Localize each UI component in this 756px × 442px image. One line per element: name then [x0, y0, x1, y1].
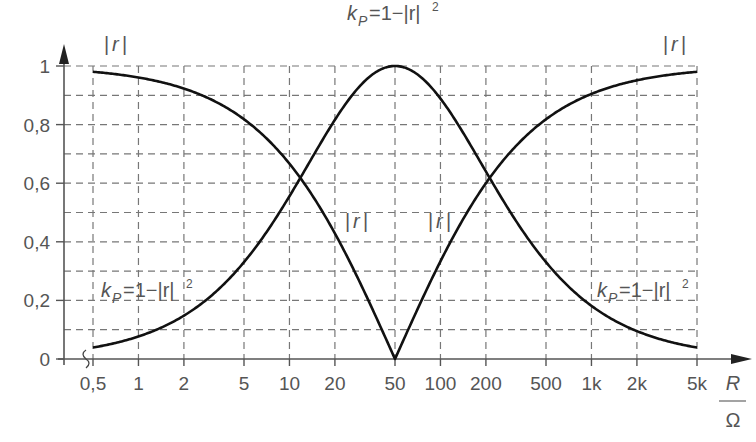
x-tick-label: 500	[530, 373, 562, 394]
x-tick-label: 20	[324, 373, 345, 394]
grid-lines	[64, 66, 697, 359]
svg-text:|: |	[104, 33, 109, 55]
x-tick-label: 10	[279, 373, 300, 394]
x-tick-label: 5k	[687, 373, 708, 394]
svg-text:|: |	[663, 33, 668, 55]
y-tick-label: 0,8	[24, 115, 50, 136]
y-tick-label: 0	[39, 349, 50, 370]
x-tick-label: 100	[425, 373, 457, 394]
annotation-r-top-right: | r |	[663, 33, 686, 55]
svg-text:|: |	[428, 210, 433, 232]
svg-text:r: r	[436, 210, 444, 232]
axes	[58, 44, 752, 368]
svg-text:k: k	[597, 279, 608, 301]
svg-text:|: |	[446, 210, 451, 232]
svg-text:P: P	[112, 290, 122, 306]
x-tick-label: 50	[384, 373, 405, 394]
svg-text:k: k	[101, 279, 112, 301]
y-tick-labels: 00,20,40,60,81	[24, 56, 64, 370]
y-tick-label: 0,2	[24, 290, 50, 311]
annotation-kp-bottom-left: k P =1−|r| 2	[101, 277, 193, 306]
svg-text:=1−|r|: =1−|r|	[619, 279, 671, 301]
svg-text:2: 2	[186, 277, 193, 291]
svg-text:|: |	[122, 33, 127, 55]
x-tick-label: 2	[179, 373, 190, 394]
svg-text:=1−|r|: =1−|r|	[123, 279, 175, 301]
x-tick-label: 1k	[581, 373, 602, 394]
svg-text:|: |	[681, 33, 686, 55]
svg-text:|: |	[345, 210, 350, 232]
svg-text:2: 2	[682, 277, 689, 291]
x-tick-label: 2k	[627, 373, 648, 394]
annotation-r-center-right: | r |	[428, 210, 451, 232]
svg-text:k: k	[347, 2, 358, 24]
x-label-denominator: Ω	[726, 409, 741, 431]
x-tick-label: 1	[133, 373, 144, 394]
chart: 00,20,40,60,81 0,51251020501002005001k2k…	[0, 0, 756, 442]
svg-text:r: r	[671, 33, 679, 55]
annotation-kp-top: k P =1−|r| 2	[347, 0, 439, 29]
x-axis-arrow-icon	[731, 354, 752, 364]
svg-text:=1−|r|: =1−|r|	[369, 2, 421, 24]
annotation-r-top-left: | r |	[104, 33, 127, 55]
x-tick-label: 0,5	[80, 373, 106, 394]
svg-text:r: r	[353, 210, 361, 232]
x-axis-label: R Ω	[719, 372, 746, 431]
svg-text:r: r	[112, 33, 120, 55]
y-axis-arrow-icon	[59, 44, 69, 64]
y-tick-label: 0,4	[24, 232, 51, 253]
y-tick-label: 1	[39, 56, 50, 77]
x-label-numerator: R	[726, 372, 740, 394]
svg-text:P: P	[608, 290, 618, 306]
annotation-kp-bottom-right: k P =1−|r| 2	[597, 277, 689, 306]
annotation-r-center-left: | r |	[345, 210, 368, 232]
svg-text:|: |	[363, 210, 368, 232]
y-tick-label: 0,6	[24, 173, 50, 194]
x-tick-label: 5	[239, 373, 250, 394]
x-tick-labels: 0,51251020501002005001k2k5k	[80, 359, 708, 394]
x-tick-label: 200	[470, 373, 502, 394]
svg-text:P: P	[358, 13, 368, 29]
svg-text:2: 2	[432, 0, 439, 14]
